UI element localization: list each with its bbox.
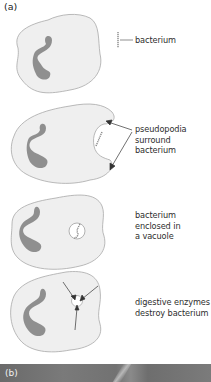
vacuole xyxy=(69,223,85,239)
bacterium-icon xyxy=(96,132,102,146)
cell-membrane xyxy=(17,14,101,92)
caption-stage-2: pseudopodia surround bacterium xyxy=(135,124,187,156)
micrograph-photo xyxy=(0,364,211,382)
cell-membrane xyxy=(11,104,114,183)
caption-stage-1: bacterium xyxy=(135,35,176,46)
caption-stage-4: digestive enzymes destroy bacterium xyxy=(135,297,210,318)
cell-membrane xyxy=(11,195,105,269)
caption-stage-3: bacterium enclosed in a vacuole xyxy=(135,210,180,242)
stage-1-phagocyte xyxy=(0,10,211,95)
panel-b-label: (b) xyxy=(5,368,18,378)
